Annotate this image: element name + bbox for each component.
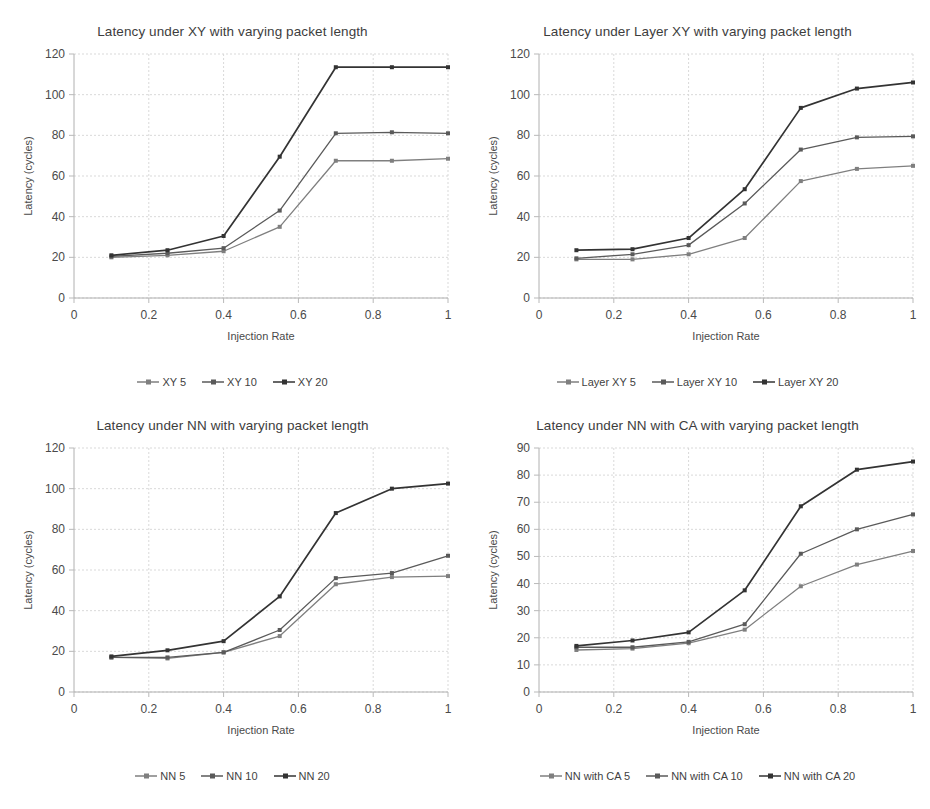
data-point [855, 563, 859, 567]
x-axis-tick-label: 1 [910, 308, 917, 322]
legend-item[interactable]: XY 10 [202, 376, 257, 388]
chart-title: Latency under XY with varying packet len… [0, 24, 465, 39]
legend-item[interactable]: Layer XY 5 [557, 376, 636, 388]
data-point [687, 236, 691, 240]
data-point [574, 248, 578, 252]
data-point [222, 246, 226, 250]
data-point [911, 134, 915, 138]
x-axis-tick-label: 0.8 [830, 308, 847, 322]
figure-sheet: Latency under XY with varying packet len… [0, 0, 930, 809]
data-point [166, 655, 170, 659]
data-point [631, 247, 635, 251]
y-axis-title: Latency (cycles) [22, 54, 34, 298]
data-point [743, 588, 747, 592]
x-axis-tick-label: 0 [71, 308, 78, 322]
data-point [911, 80, 915, 84]
chart-legend: XY 5XY 10XY 20 [0, 376, 465, 388]
x-axis-tick-label: 0.8 [830, 702, 847, 716]
data-point [855, 135, 859, 139]
legend-item[interactable]: NN 5 [135, 770, 185, 782]
legend-item[interactable]: NN 10 [201, 770, 257, 782]
data-point [334, 582, 338, 586]
plot-area: 02040608010012000.20.40.60.81Injection R… [465, 46, 930, 366]
x-axis-tick-label: 0.2 [140, 702, 157, 716]
data-point [222, 639, 226, 643]
legend-item[interactable]: NN with CA 20 [759, 770, 856, 782]
series-line [574, 134, 915, 260]
data-point [855, 468, 859, 472]
series-line [109, 130, 450, 258]
legend-line-marker-icon [646, 771, 668, 781]
legend-line-marker-icon [202, 377, 224, 387]
data-point [911, 460, 915, 464]
legend-item[interactable]: Layer XY 10 [652, 376, 737, 388]
y-axis-title: Latency (cycles) [487, 448, 499, 692]
data-point [574, 644, 578, 648]
chart-legend: NN with CA 5NN with CA 10NN with CA 20 [465, 770, 930, 782]
data-point [334, 65, 338, 69]
x-axis-tick-label: 1 [445, 308, 452, 322]
y-axis-title: Latency (cycles) [22, 448, 34, 692]
legend-line-marker-icon [137, 377, 159, 387]
gridlines [74, 448, 448, 692]
plot-area: 02040608010012000.20.40.60.81Injection R… [0, 440, 465, 760]
plot-area: 010203040506070809000.20.40.60.81Injecti… [465, 440, 930, 760]
data-point [446, 554, 450, 558]
chart-panel-latency-nn-with-ca: Latency under NN with CA with varying pa… [465, 418, 930, 803]
data-point [855, 167, 859, 171]
x-axis-tick-label: 0.4 [215, 308, 232, 322]
legend-item[interactable]: XY 5 [137, 376, 186, 388]
legend-item[interactable]: XY 20 [273, 376, 328, 388]
legend-label: NN with CA 5 [565, 770, 630, 782]
series-line [574, 549, 915, 652]
x-axis-title: Injection Rate [539, 330, 913, 342]
data-point [743, 622, 747, 626]
x-axis-tick-label: 1 [910, 702, 917, 716]
axes [534, 54, 913, 303]
data-point [109, 654, 113, 658]
data-point [446, 574, 450, 578]
legend-line-marker-icon [201, 771, 223, 781]
data-point [799, 552, 803, 556]
x-axis-tick-label: 0.6 [290, 308, 307, 322]
legend-item[interactable]: Layer XY 20 [753, 376, 838, 388]
data-point [446, 65, 450, 69]
legend-line-marker-icon [135, 771, 157, 781]
data-point [334, 131, 338, 135]
series-line [574, 164, 915, 262]
data-point [334, 159, 338, 163]
data-point [855, 87, 859, 91]
data-point [799, 179, 803, 183]
data-point [278, 209, 282, 213]
y-axis-title: Latency (cycles) [487, 54, 499, 298]
x-axis-tick-label: 0.8 [365, 308, 382, 322]
data-point [687, 252, 691, 256]
data-point [799, 504, 803, 508]
data-point [222, 650, 226, 654]
data-point [278, 594, 282, 598]
data-point [911, 549, 915, 553]
legend-label: NN 5 [160, 770, 185, 782]
legend-label: XY 5 [162, 376, 186, 388]
x-axis-tick-label: 0.4 [680, 308, 697, 322]
series-line [109, 574, 450, 660]
legend-item[interactable]: NN with CA 5 [540, 770, 630, 782]
x-axis-title: Injection Rate [74, 724, 448, 736]
data-point [390, 65, 394, 69]
data-point [911, 512, 915, 516]
legend-item[interactable]: NN with CA 10 [646, 770, 743, 782]
legend-item[interactable]: NN 20 [274, 770, 330, 782]
legend-label: XY 10 [227, 376, 257, 388]
data-point [799, 584, 803, 588]
data-point [334, 511, 338, 515]
data-point [390, 130, 394, 134]
data-point [278, 225, 282, 229]
legend-label: NN 10 [226, 770, 257, 782]
chart-title: Latency under NN with CA with varying pa… [465, 418, 930, 433]
legend-line-marker-icon [557, 377, 579, 387]
chart-panel-latency-xy: Latency under XY with varying packet len… [0, 24, 465, 409]
axes [534, 448, 913, 697]
legend-label: NN with CA 20 [784, 770, 856, 782]
series-line [574, 80, 915, 252]
data-point [166, 648, 170, 652]
